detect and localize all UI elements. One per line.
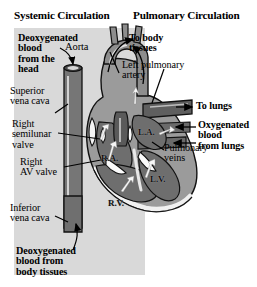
title-systemic-circulation: Systemic Circulation: [14, 10, 110, 21]
chamber-label-left-atrium: L.A.: [138, 128, 155, 137]
label-superior-vena-cava: Superior vena cava: [10, 86, 50, 107]
label-deoxygenated-blood-from-head: Deoxygenated blood from the head: [18, 33, 78, 75]
label-left-pulmonary-artery: Left pulmonary artery: [122, 60, 184, 81]
label-to-body-tissues: To body tissues: [129, 33, 163, 54]
chamber-label-left-ventricle: L.V.: [150, 175, 165, 184]
chamber-label-right-ventricle: R.V.: [108, 199, 124, 208]
label-right-av-valve: Right AV valve: [20, 157, 57, 178]
label-right-semilunar-valve: Right semilunar valve: [12, 119, 51, 150]
heart-body-group: [64, 24, 197, 232]
figure-root: Systemic Circulation Pulmonary Circulati…: [0, 0, 257, 287]
label-pulmonary-veins: Pulmonary veins: [164, 143, 208, 164]
label-deoxygenated-blood-from-body-tissues: Deoxygenated blood from body tissues: [16, 246, 76, 277]
inferior-vena-cava-vessel: [64, 196, 82, 232]
label-aorta: Aorta: [65, 42, 88, 53]
aortic-branch-left: [110, 27, 118, 44]
title-pulmonary-circulation: Pulmonary Circulation: [133, 10, 240, 21]
label-inferior-vena-cava: Inferior vena cava: [10, 203, 50, 224]
aortic-branch-mid: [122, 24, 128, 40]
label-to-lungs: To lungs: [196, 101, 232, 111]
chamber-label-right-atrium: R.A.: [101, 154, 118, 163]
